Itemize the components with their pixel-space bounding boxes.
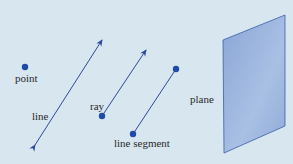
label-line: line [32, 110, 49, 122]
segment-figure [130, 66, 179, 137]
ray-arrow [102, 50, 146, 116]
ray-figure [99, 50, 146, 119]
segment-line [133, 69, 176, 134]
plane-shape [223, 15, 285, 153]
point-figure [22, 64, 28, 70]
line-double-arrow [35, 40, 102, 145]
line-figure [35, 40, 102, 145]
ray-endpoint-dot [99, 113, 105, 119]
point-dot [22, 64, 28, 70]
segment-endpoint-dot-b [173, 66, 179, 72]
label-plane: plane [190, 93, 214, 105]
label-ray: ray [90, 100, 104, 112]
label-line-segment: line segment [114, 137, 170, 149]
label-point: point [15, 72, 38, 84]
plane-figure [223, 15, 285, 153]
